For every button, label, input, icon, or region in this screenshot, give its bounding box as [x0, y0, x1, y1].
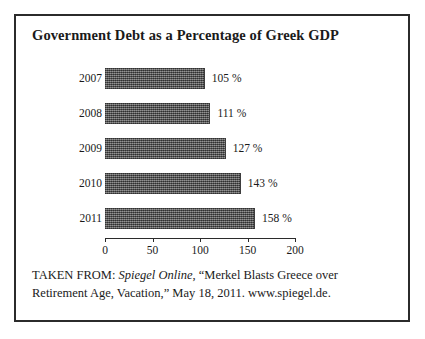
figure-container: Government Debt as a Percentage of Greek… — [14, 14, 410, 322]
x-axis-tick-mark — [105, 238, 106, 242]
source-publication: Spiegel Online — [119, 268, 193, 282]
x-axis-tick-mark — [153, 238, 154, 242]
bar-row: 2009127 % — [16, 138, 412, 159]
bar-value-label: 158 % — [262, 213, 292, 225]
bar — [105, 103, 210, 124]
bar-row: 2007105 % — [16, 68, 412, 89]
bar-chart-plot-area: 2007105 %2008111 %2009127 %2010143 %2011… — [16, 60, 412, 260]
bar-row: 2011158 % — [16, 208, 412, 229]
x-axis-tick-label: 50 — [147, 245, 159, 257]
bar — [105, 68, 205, 89]
bar-value-label: 111 % — [217, 108, 246, 120]
x-axis-tick-label: 150 — [239, 245, 256, 257]
source-attribution: TAKEN FROM: Spiegel Online, “Merkel Blas… — [32, 266, 394, 302]
bar-category-label: 2010 — [16, 178, 102, 190]
x-axis-tick-mark — [248, 238, 249, 242]
bar-row: 2010143 % — [16, 173, 412, 194]
x-axis-tick-label: 0 — [102, 245, 108, 257]
bar — [105, 173, 241, 194]
source-prefix: TAKEN FROM: — [32, 268, 119, 282]
bar-category-label: 2011 — [16, 213, 102, 225]
x-axis-tick-mark — [200, 238, 201, 242]
bar-category-label: 2008 — [16, 108, 102, 120]
bar — [105, 138, 226, 159]
bar — [105, 208, 255, 229]
x-axis-tick-label: 100 — [191, 245, 208, 257]
bar-category-label: 2007 — [16, 73, 102, 85]
bar-value-label: 127 % — [233, 143, 263, 155]
x-axis-tick-mark — [295, 238, 296, 242]
bar-category-label: 2009 — [16, 143, 102, 155]
x-axis-tick-label: 200 — [286, 245, 303, 257]
bar-value-label: 105 % — [212, 73, 242, 85]
page-title: Government Debt as a Percentage of Greek… — [32, 27, 339, 44]
bar-value-label: 143 % — [248, 178, 278, 190]
bar-row: 2008111 % — [16, 103, 412, 124]
